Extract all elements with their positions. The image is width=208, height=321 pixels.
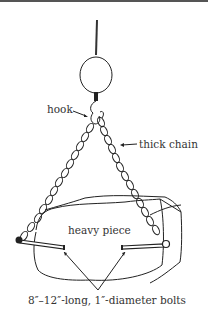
- label-thick-chain: thick chain: [139, 138, 198, 150]
- bolt-pointer-right: [98, 252, 125, 290]
- label-bolts: 8″–12″-long, 1″-diameter bolts: [28, 294, 186, 306]
- right-chain: [96, 116, 161, 236]
- label-hook: hook: [47, 103, 73, 115]
- heavy-piece-block: [34, 196, 182, 283]
- right-bolt: [122, 241, 170, 251]
- hook-icon: [91, 101, 100, 124]
- lifting-ring: [80, 57, 112, 93]
- chain-arrow: [122, 144, 137, 145]
- suspension-rod: [96, 20, 97, 55]
- lifting-diagram: hook thick chain heavy piece 8″–12″-long…: [0, 0, 208, 321]
- label-heavy-piece: heavy piece: [68, 224, 131, 236]
- bolt-pointer-left: [64, 252, 98, 290]
- hook-shank: [94, 92, 98, 101]
- left-bolt: [16, 237, 65, 251]
